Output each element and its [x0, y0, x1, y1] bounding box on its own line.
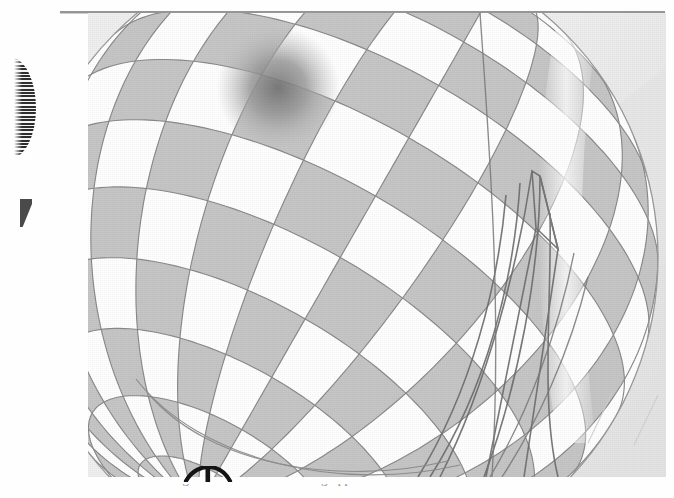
sphere-figure	[88, 13, 666, 477]
cut-off-wedge-glyph	[20, 199, 32, 227]
comb-glyph-fade	[14, 58, 22, 158]
cut-off-text: a hidden surface removal algorithm with …	[28, 484, 408, 487]
pole-convergence-shading	[216, 26, 340, 150]
scanned-page: a hidden surface removal algorithm with …	[0, 0, 674, 498]
cut-off-phi-glyph	[182, 466, 234, 482]
figure-plate	[88, 13, 666, 477]
cut-off-comb-glyph	[14, 58, 36, 158]
sphere-body	[88, 13, 658, 477]
phi-glyph-shape	[182, 466, 234, 482]
cut-off-text-line: a hidden surface removal algorithm with …	[0, 484, 674, 498]
